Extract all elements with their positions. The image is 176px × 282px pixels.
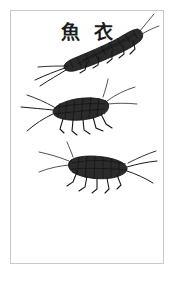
silverfish-middle <box>21 79 137 135</box>
antennae-bottom <box>39 142 73 172</box>
antennae-top <box>140 14 159 34</box>
body-bottom <box>69 156 128 179</box>
silverfish-top <box>35 14 159 86</box>
cerci-middle <box>21 95 54 131</box>
figure-group <box>11 11 165 265</box>
cerci-bottom <box>127 151 157 183</box>
antennae-middle <box>103 79 137 104</box>
plate-frame: 魚衣 <box>10 10 164 264</box>
silverfish-bottom <box>39 142 157 193</box>
cerci-top <box>35 66 68 86</box>
illustration-page: 魚衣 <box>0 0 176 282</box>
